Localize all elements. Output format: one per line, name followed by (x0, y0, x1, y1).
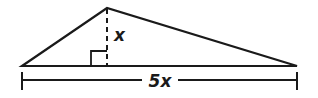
altitude-label: x (113, 25, 126, 45)
triangle-diagram-svg: x 5x (0, 0, 318, 98)
geometry-figure: x 5x (0, 0, 318, 98)
right-angle-marker-icon (91, 51, 107, 66)
base-length-label: 5x (149, 71, 173, 91)
triangle-shape (22, 8, 297, 66)
